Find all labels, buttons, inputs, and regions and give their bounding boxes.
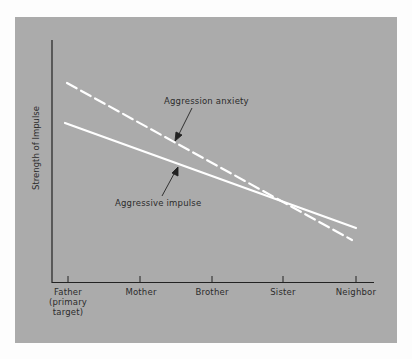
- x-tick-label-mother: Mother: [125, 287, 156, 297]
- series-aggression-anxiety: [67, 83, 352, 240]
- arrow-anxiety: [175, 108, 192, 141]
- y-axis-label: Strength of Impulse: [31, 106, 41, 190]
- x-tick-label-father: Father (primary target): [49, 287, 87, 317]
- x-ticks: [68, 276, 356, 282]
- series-aggressive-impulse: [65, 123, 356, 228]
- x-tick-father-line1: Father: [49, 287, 87, 297]
- annotation-aggression-anxiety: Aggression anxiety: [164, 96, 249, 106]
- x-tick-label-brother: Brother: [195, 287, 228, 297]
- x-tick-father-line2: (primary: [49, 297, 87, 307]
- x-tick-label-sister: Sister: [270, 287, 295, 297]
- annotation-aggressive-impulse: Aggressive impulse: [115, 198, 201, 208]
- x-tick-label-neighbor: Neighbor: [336, 287, 376, 297]
- x-tick-father-line3: target): [49, 307, 87, 317]
- arrow-impulse: [162, 167, 178, 196]
